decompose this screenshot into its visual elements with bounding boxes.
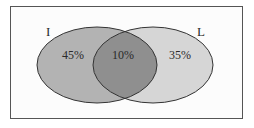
set-i-only-value: 45% <box>62 48 84 62</box>
set-l-label: L <box>197 24 205 39</box>
intersection-value: 10% <box>112 48 134 62</box>
set-i-label: I <box>46 24 50 39</box>
set-l-only-value: 35% <box>169 48 191 62</box>
venn-diagram: I L 45% 10% 35% <box>0 0 254 128</box>
